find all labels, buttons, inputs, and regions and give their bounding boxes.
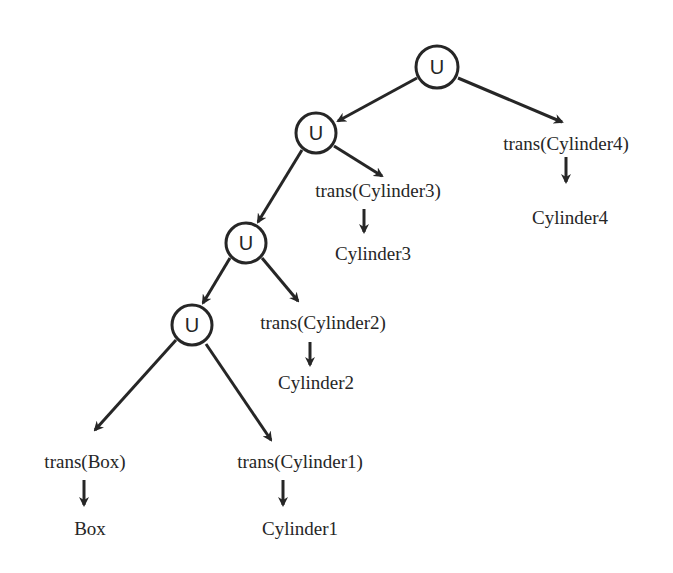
union-label-2: U bbox=[309, 122, 323, 144]
union-label-1: U bbox=[430, 56, 444, 78]
edge-u1-trans-cyl4 bbox=[458, 78, 562, 122]
edge-u3-u4 bbox=[203, 258, 230, 303]
edge-u4-trans-box bbox=[95, 340, 176, 430]
label-cylinder3: Cylinder3 bbox=[335, 244, 411, 263]
label-trans-cylinder3: trans(Cylinder3) bbox=[315, 181, 441, 200]
union-label-4: U bbox=[185, 314, 199, 336]
edge-u2-trans-cyl3 bbox=[334, 146, 382, 176]
label-cylinder1: Cylinder1 bbox=[262, 519, 338, 538]
union-label-3: U bbox=[239, 232, 253, 254]
edge-u2-u3 bbox=[258, 150, 302, 222]
label-trans-cylinder4: trans(Cylinder4) bbox=[503, 134, 629, 153]
label-cylinder4: Cylinder4 bbox=[532, 208, 608, 227]
edge-u4-trans-cyl1 bbox=[206, 344, 271, 440]
label-cylinder2: Cylinder2 bbox=[278, 373, 354, 392]
label-trans-box: trans(Box) bbox=[44, 452, 125, 471]
edge-u3-trans-cyl2 bbox=[262, 258, 298, 301]
edge-u1-u2 bbox=[338, 78, 417, 121]
tree-diagram: U U U U bbox=[0, 0, 673, 573]
label-trans-cylinder2: trans(Cylinder2) bbox=[260, 313, 386, 332]
label-trans-cylinder1: trans(Cylinder1) bbox=[237, 452, 363, 471]
label-box: Box bbox=[74, 519, 106, 538]
